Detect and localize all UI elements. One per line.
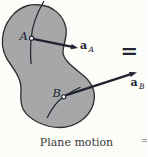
equals-sign: = [121, 38, 139, 63]
figure-caption: Plane motion [40, 136, 113, 149]
point-A-marker [29, 36, 33, 40]
clipped-equals-mark: = [142, 135, 148, 145]
vector-B-symbol: a [131, 76, 138, 89]
plane-motion-figure: A B a A a B = Plane motion = [0, 0, 147, 157]
point-B-label: B [52, 86, 61, 100]
vector-A-subscript: A [88, 45, 95, 54]
vector-A-symbol: a [80, 39, 87, 52]
point-B-marker [62, 95, 66, 99]
point-A-label: A [19, 29, 28, 43]
figure-canvas: A B a A a B = Plane motion = [0, 0, 147, 157]
vector-B-subscript: B [138, 82, 145, 91]
